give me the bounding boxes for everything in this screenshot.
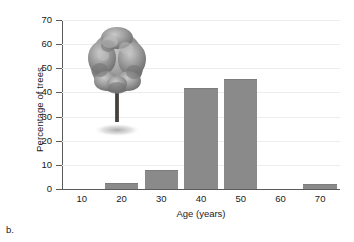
x-tick-label: 60	[260, 193, 300, 204]
y-tick-label: 30	[28, 112, 52, 122]
bar	[224, 79, 257, 189]
x-tick-label: 50	[221, 193, 261, 204]
x-tick-label: 30	[141, 193, 181, 204]
bar-series	[62, 20, 340, 189]
y-tick-label: 20	[28, 136, 52, 146]
y-tick-label: 60	[28, 39, 52, 49]
y-tick-mark	[56, 189, 62, 190]
x-tick-label: 40	[181, 193, 221, 204]
figure-panel: Percentage of trees 010203040506070 1020…	[0, 0, 354, 242]
x-tick-label: 70	[300, 193, 340, 204]
y-tick-label: 40	[28, 87, 52, 97]
x-axis-line	[62, 189, 340, 190]
bar	[145, 170, 178, 189]
bar	[184, 88, 217, 189]
y-tick-label: 50	[28, 63, 52, 73]
y-tick-label: 70	[28, 15, 52, 25]
y-tick-label: 0	[28, 184, 52, 194]
bar	[303, 184, 336, 189]
x-tick-label: 10	[62, 193, 102, 204]
x-tick-label: 20	[102, 193, 142, 204]
bar	[105, 183, 138, 189]
x-axis-title: Age (years)	[62, 208, 340, 219]
figure-caption: b.	[6, 224, 14, 235]
y-tick-label: 10	[28, 160, 52, 170]
plot-area	[62, 20, 340, 189]
